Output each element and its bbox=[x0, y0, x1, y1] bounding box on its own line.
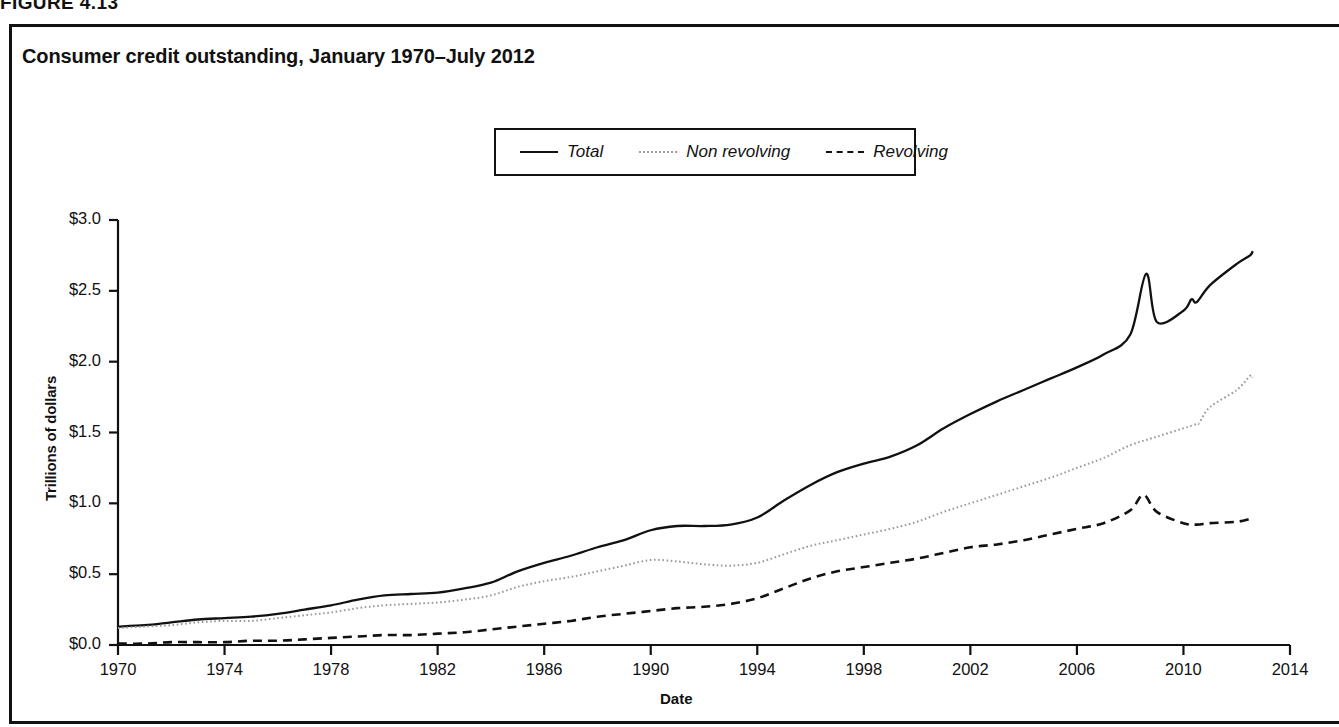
chart-legend: Total Non revolving Revolving bbox=[494, 128, 916, 176]
y-axis-tick-label: $0.0 bbox=[23, 634, 101, 653]
x-axis-tick-label: 1970 bbox=[88, 660, 148, 679]
legend-label-total: Total bbox=[567, 142, 603, 162]
x-axis-tick-label: 2006 bbox=[1047, 660, 1107, 679]
legend-item-total[interactable]: Total bbox=[520, 142, 603, 162]
figure-number: FIGURE 4.13 bbox=[0, 0, 118, 14]
x-axis-tick-label: 1974 bbox=[195, 660, 255, 679]
x-axis-tick-label: 1998 bbox=[834, 660, 894, 679]
x-axis-tick-label: 1986 bbox=[514, 660, 574, 679]
x-axis-tick-label: 1978 bbox=[301, 660, 361, 679]
legend-item-non-revolving[interactable]: Non revolving bbox=[639, 142, 790, 162]
x-axis-tick-label: 2014 bbox=[1260, 660, 1320, 679]
legend-label-revolving: Revolving bbox=[873, 142, 948, 162]
legend-item-revolving[interactable]: Revolving bbox=[826, 142, 948, 162]
x-axis-label: Date bbox=[660, 690, 693, 707]
x-axis-tick-label: 2002 bbox=[940, 660, 1000, 679]
legend-label-non-revolving: Non revolving bbox=[686, 142, 790, 162]
y-axis-tick-label: $1.0 bbox=[23, 492, 101, 511]
x-axis-tick-label: 1990 bbox=[621, 660, 681, 679]
y-axis-tick-label: $3.0 bbox=[23, 209, 101, 228]
y-axis-tick-label: $2.5 bbox=[23, 280, 101, 299]
legend-swatch-dotted-line-icon bbox=[639, 146, 677, 158]
y-axis-tick-label: $2.0 bbox=[23, 351, 101, 370]
x-axis-tick-label: 2010 bbox=[1153, 660, 1213, 679]
chart-title: Consumer credit outstanding, January 197… bbox=[22, 45, 535, 68]
y-axis-tick-label: $0.5 bbox=[23, 563, 101, 582]
x-axis-tick-label: 1982 bbox=[408, 660, 468, 679]
legend-swatch-dashed-line-icon bbox=[826, 146, 864, 158]
x-axis-tick-label: 1994 bbox=[727, 660, 787, 679]
y-axis-tick-label: $1.5 bbox=[23, 422, 101, 441]
legend-swatch-solid-line-icon bbox=[520, 146, 558, 158]
